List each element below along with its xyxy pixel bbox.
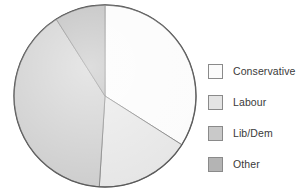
legend-item-conservative[interactable]: Conservative	[208, 58, 298, 84]
legend-swatch-other	[208, 157, 223, 172]
pie-chart-figure: Conservative Labour Lib/Dem Other	[0, 0, 298, 195]
legend-label-conservative: Conservative	[233, 65, 295, 77]
legend-swatch-labour	[208, 95, 223, 110]
legend-swatch-libdem	[208, 126, 223, 141]
pie-sheen-overlay	[14, 5, 196, 187]
legend-label-libdem: Lib/Dem	[233, 127, 273, 139]
legend-swatch-conservative	[208, 64, 223, 79]
legend-label-labour: Labour	[233, 96, 266, 108]
legend-item-labour[interactable]: Labour	[208, 89, 298, 115]
legend-item-libdem[interactable]: Lib/Dem	[208, 120, 298, 146]
legend-label-other: Other	[233, 158, 260, 170]
legend-item-other[interactable]: Other	[208, 151, 298, 177]
legend: Conservative Labour Lib/Dem Other	[208, 58, 298, 182]
